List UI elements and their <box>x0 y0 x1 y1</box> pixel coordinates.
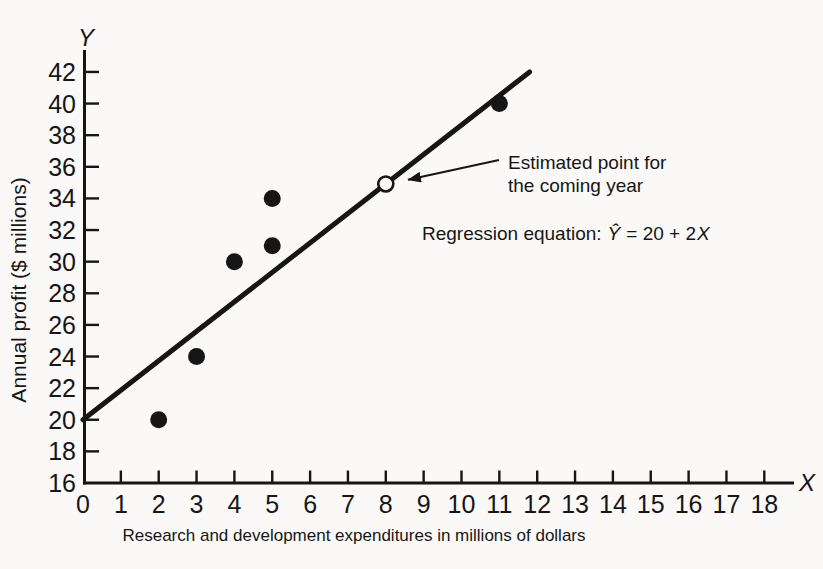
y-tick-label: 40 <box>48 90 76 118</box>
equation-variable: X <box>696 223 711 244</box>
x-tick-label: 3 <box>190 490 204 518</box>
axes <box>83 50 794 485</box>
x-tick-label: 17 <box>713 490 741 518</box>
x-tick-label: 5 <box>265 490 279 518</box>
x-tick-label: 11 <box>486 490 512 518</box>
y-axis-letter: Y <box>78 24 96 51</box>
annotation-line-1: Estimated point for <box>508 152 667 173</box>
data-point <box>188 348 205 365</box>
chart-canvas: 1618202224262830323436384042 01234567891… <box>0 0 823 569</box>
x-tick-label: 1 <box>114 490 128 518</box>
data-point <box>264 237 281 254</box>
y-tick-label: 24 <box>48 343 76 371</box>
y-tick-label: 42 <box>48 58 76 86</box>
scatter-regression-figure: 1618202224262830323436384042 01234567891… <box>0 0 823 569</box>
annotation-line-2: the coming year <box>508 175 644 196</box>
y-tick-label: 28 <box>48 279 76 307</box>
data-points-group <box>150 95 508 428</box>
regression-line-group <box>83 72 530 420</box>
estimate-annotation: Estimated point for the coming year <box>408 152 667 196</box>
estimated-point-marker <box>378 176 393 191</box>
data-point <box>226 253 243 270</box>
data-point <box>491 95 508 112</box>
y-tick-label: 36 <box>48 153 76 181</box>
y-tick-label: 26 <box>48 311 76 339</box>
y-axis-title: Annual profit ($ millions) <box>7 177 30 402</box>
x-axis-ticks: 0123456789101112131415161718 <box>76 471 778 519</box>
x-tick-label: 2 <box>152 490 166 518</box>
equation-variable: Ŷ <box>608 223 622 244</box>
y-tick-label: 22 <box>48 374 76 402</box>
x-tick-label: 8 <box>379 490 393 518</box>
x-tick-label: 10 <box>448 490 476 518</box>
y-tick-label: 20 <box>48 406 76 434</box>
y-tick-label: 32 <box>48 216 76 244</box>
regression-line <box>83 72 530 420</box>
regression-equation: Regression equation:Ŷ= 20 + 2X <box>422 223 711 244</box>
y-tick-label: 38 <box>48 121 76 149</box>
y-tick-label: 16 <box>48 469 76 497</box>
equation-label: Regression equation: <box>422 223 602 244</box>
y-tick-label: 34 <box>48 184 76 212</box>
x-tick-label: 12 <box>523 490 551 518</box>
y-tick-label: 18 <box>48 437 76 465</box>
x-tick-label: 0 <box>76 490 90 518</box>
x-tick-label: 7 <box>341 490 355 518</box>
annotation-arrow <box>408 160 499 180</box>
x-tick-label: 9 <box>417 490 431 518</box>
y-tick-label: 30 <box>48 248 76 276</box>
x-tick-label: 18 <box>750 490 778 518</box>
x-axis-title: Research and development expenditures in… <box>122 526 585 545</box>
equation-term: = 20 + 2 <box>626 223 696 244</box>
data-point <box>150 411 167 428</box>
y-axis-ticks: 1618202224262830323436384042 <box>48 58 99 497</box>
x-tick-label: 13 <box>561 490 589 518</box>
data-point <box>264 190 281 207</box>
x-tick-label: 15 <box>637 490 665 518</box>
x-tick-label: 6 <box>303 490 317 518</box>
x-tick-label: 14 <box>599 490 627 518</box>
x-tick-label: 16 <box>675 490 703 518</box>
x-tick-label: 4 <box>227 490 241 518</box>
x-axis-letter: X <box>798 469 816 496</box>
